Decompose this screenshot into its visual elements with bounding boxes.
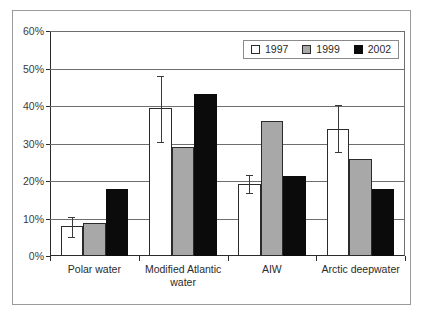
x-group-label-2: AIW (228, 263, 317, 276)
plot-area: 0%10%20%30%40%50%60% (50, 31, 405, 256)
y-tick-mark (46, 31, 50, 32)
x-tick-mark (50, 256, 51, 261)
error-bar-cap-lower-3 (335, 152, 342, 153)
x-tick-mark (228, 256, 229, 261)
error-bar-cap-lower-2 (246, 193, 253, 194)
legend-label: 1997 (265, 44, 288, 55)
gridline (50, 69, 405, 70)
legend-entry-1997: 1997 (251, 44, 288, 55)
error-bar-line-1997-3 (338, 105, 339, 152)
legend-label: 1999 (316, 44, 339, 55)
y-tick-label: 10% (23, 213, 44, 224)
x-tick-mark (139, 256, 140, 261)
error-bar-cap-lower-0 (68, 237, 75, 238)
y-tick-label: 0% (29, 251, 44, 262)
legend-entry-2002: 2002 (354, 44, 391, 55)
y-tick-mark (46, 181, 50, 182)
bar-2002-0 (106, 189, 129, 256)
bar-2002-2 (283, 176, 306, 256)
bar-1999-2 (261, 121, 284, 256)
x-group-label-3: Arctic deepwater (316, 263, 405, 276)
y-tick-label: 50% (23, 63, 44, 74)
error-bar-line-1997-0 (72, 217, 73, 238)
x-tick-mark (316, 256, 317, 261)
chart-legend: 199719992002 (243, 40, 399, 59)
x-group-label-0: Polar water (50, 263, 139, 276)
x-group-label-1: Modified Atlantic water (139, 263, 228, 289)
error-bar-cap-upper-1 (157, 76, 164, 77)
y-tick-label: 40% (23, 101, 44, 112)
gray-square-icon (302, 45, 311, 54)
error-bar-line-1997-1 (161, 76, 162, 142)
bar-1999-1 (172, 147, 195, 256)
y-tick-mark (46, 219, 50, 220)
legend-entry-1999: 1999 (302, 44, 339, 55)
bar-1999-3 (349, 159, 372, 257)
legend-label: 2002 (368, 44, 391, 55)
white-square-outline-icon (251, 45, 260, 54)
bar-2002-1 (194, 94, 217, 256)
error-bar-cap-upper-0 (68, 217, 75, 218)
bar-1999-0 (83, 223, 106, 256)
y-tick-label: 20% (23, 176, 44, 187)
error-bar-cap-upper-3 (335, 105, 342, 106)
error-bar-cap-lower-1 (157, 142, 164, 143)
y-tick-mark (46, 144, 50, 145)
y-tick-label: 60% (23, 26, 44, 37)
black-square-icon (354, 45, 363, 54)
y-tick-mark (46, 106, 50, 107)
gridline (50, 106, 405, 107)
error-bar-cap-upper-2 (246, 175, 253, 176)
gridline (50, 144, 405, 145)
y-tick-label: 30% (23, 138, 44, 149)
bar-1997-2 (238, 184, 261, 256)
bar-2002-3 (372, 189, 395, 256)
x-tick-mark (405, 256, 406, 261)
y-tick-mark (46, 69, 50, 70)
error-bar-line-1997-2 (249, 175, 250, 193)
chart-figure: 0%10%20%30%40%50%60% Polar waterModified… (0, 0, 423, 320)
gridline (50, 31, 405, 32)
